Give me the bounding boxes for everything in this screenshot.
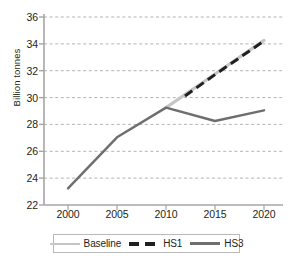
plot-area — [0, 0, 290, 259]
series-line-hs3 — [68, 108, 264, 189]
legend-label: HS3 — [224, 238, 243, 249]
x-tick-label: 2010 — [143, 208, 189, 220]
legend-item-hs1: HS1 — [125, 238, 186, 249]
legend-item-baseline: Baseline — [46, 238, 126, 249]
legend-swatch-hs3-icon — [190, 242, 220, 245]
legend-label: HS1 — [163, 238, 182, 249]
x-tick-label: 2005 — [94, 208, 140, 220]
x-tick-label: 2015 — [192, 208, 238, 220]
gridlines — [44, 17, 283, 178]
legend-swatch-baseline-icon — [50, 243, 80, 245]
x-tick-label: 2000 — [45, 208, 91, 220]
chart-legend: Baseline HS1 HS3 — [53, 234, 240, 253]
legend-item-hs3: HS3 — [186, 238, 247, 249]
legend-label: Baseline — [84, 238, 122, 249]
chart-figure: Billion tonnes 36 34 32 30 28 26 24 22 — [0, 0, 290, 259]
x-tick-label: 2020 — [241, 208, 287, 220]
legend-swatch-hs1-icon — [129, 242, 159, 246]
